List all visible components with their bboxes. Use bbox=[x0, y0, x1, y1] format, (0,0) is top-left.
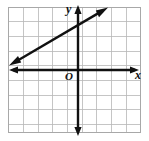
y-axis-label: y bbox=[66, 3, 71, 15]
origin-label: O bbox=[65, 71, 73, 82]
coordinate-plane-svg bbox=[0, 0, 149, 141]
x-axis-label: x bbox=[135, 69, 141, 81]
coordinate-graph-figure: y x O bbox=[0, 0, 149, 141]
